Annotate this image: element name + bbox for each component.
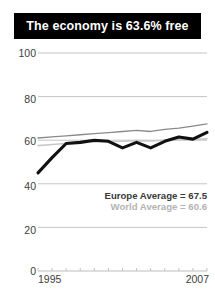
chart-legend: Europe Average = 67.5 World Average = 60… [105,190,207,213]
y-axis-labels: 100 80 60 40 20 0 [4,45,36,285]
chart-title-bar: The economy is 63.6% free [14,13,201,39]
y-tick-80: 80 [6,94,36,105]
y-tick-20: 20 [6,225,36,236]
chart-container: The economy is 63.6% free 100 80 60 40 2… [0,0,215,302]
x-tick-start: 1995 [38,274,61,285]
legend-item-europe: Europe Average = 67.5 [105,190,207,201]
country-score-line [38,132,207,173]
y-tick-40: 40 [6,181,36,192]
gridlines [38,53,207,271]
y-tick-60: 60 [6,136,36,147]
x-tick-end: 2007 [186,274,209,285]
x-axis-labels: 1995 2007 [0,274,215,292]
y-tick-100: 100 [6,48,36,59]
page-title: The economy is 63.6% free [26,20,188,33]
legend-item-world: World Average = 60.6 [105,201,207,212]
